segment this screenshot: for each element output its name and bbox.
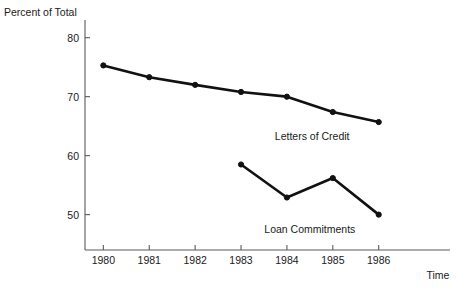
x-axis-title: Time bbox=[427, 269, 450, 281]
data-point bbox=[284, 94, 289, 99]
x-tick-label: 1983 bbox=[229, 254, 253, 266]
series-label-letters-of-credit: Letters of Credit bbox=[275, 130, 350, 142]
y-tick-label: 50 bbox=[67, 209, 79, 221]
y-tick-label: 80 bbox=[67, 32, 79, 44]
series-label-loan-commitments: Loan Commitments bbox=[264, 223, 355, 235]
data-point bbox=[330, 175, 335, 180]
series-line-loan-commitments bbox=[241, 164, 379, 214]
data-point bbox=[238, 162, 243, 167]
line-chart: 807060501980198119821983198419851986Perc… bbox=[0, 0, 468, 290]
data-point bbox=[147, 75, 152, 80]
data-point bbox=[193, 82, 198, 87]
data-point bbox=[376, 119, 381, 124]
x-tick-label: 1981 bbox=[138, 254, 162, 266]
x-tick-label: 1982 bbox=[183, 254, 207, 266]
y-tick-label: 60 bbox=[67, 150, 79, 162]
x-tick-label: 1985 bbox=[321, 254, 345, 266]
x-tick-label: 1986 bbox=[367, 254, 391, 266]
data-point bbox=[330, 109, 335, 114]
data-point bbox=[284, 195, 289, 200]
chart-canvas: 807060501980198119821983198419851986Perc… bbox=[0, 0, 468, 290]
y-tick-label: 70 bbox=[67, 91, 79, 103]
data-point bbox=[376, 212, 381, 217]
data-point bbox=[101, 63, 106, 68]
data-point bbox=[238, 89, 243, 94]
x-tick-label: 1980 bbox=[92, 254, 116, 266]
y-axis-title: Percent of Total bbox=[4, 6, 77, 18]
x-tick-label: 1984 bbox=[275, 254, 299, 266]
